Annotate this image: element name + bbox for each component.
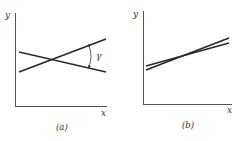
panel-b-caption: (b) [182, 120, 194, 130]
panel-b: y x (b) [132, 9, 232, 130]
panel-a-angle-arc [89, 46, 91, 67]
panel-a: γ y x (a) [4, 10, 107, 132]
panel-a-y-label: y [4, 10, 11, 20]
panel-a-x-label: x [101, 108, 106, 118]
figure-canvas: γ y x (a) y x (b) [0, 0, 243, 141]
panel-a-angle-label: γ [96, 51, 102, 61]
panel-b-y-label: y [132, 9, 139, 19]
panel-b-line-shallower [146, 43, 229, 66]
panel-b-x-label: x [227, 105, 232, 115]
panel-a-caption: (a) [56, 122, 68, 132]
